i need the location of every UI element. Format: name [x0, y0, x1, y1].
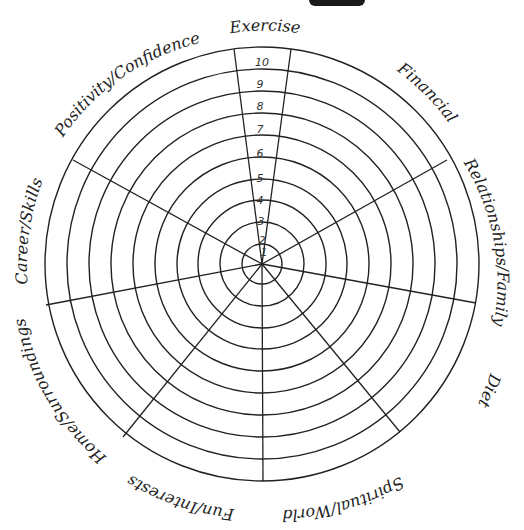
- scale-9: 9: [257, 78, 264, 91]
- category-diet: Diet: [474, 371, 505, 412]
- spoke: [46, 264, 262, 305]
- category-career-skills: Career/Skills: [12, 175, 47, 285]
- category-relationships-family: Relationships/Family: [460, 154, 513, 329]
- scale-3: 3: [258, 215, 265, 228]
- spoke: [262, 264, 400, 432]
- category-exercise: Exercise: [227, 16, 301, 38]
- category-labels: Exercise Financial Relationships/Family …: [10, 16, 513, 526]
- spoke: [123, 264, 262, 437]
- spoke: [262, 264, 263, 481]
- scale-7: 7: [257, 123, 264, 136]
- category-home-surroundings: Home/Surroundings: [10, 317, 110, 469]
- category-spiritual-world: Spiritual/World: [282, 473, 407, 525]
- scale-2: 2: [259, 234, 266, 247]
- wheel-of-life: 1 2 3 4 5 6 7 8 9 10 Exercise Financial …: [0, 0, 524, 530]
- scale-4: 4: [257, 194, 264, 207]
- scale-6: 6: [257, 147, 264, 160]
- category-fun-interests: Fun/Interests: [123, 471, 235, 524]
- scale-5: 5: [257, 172, 264, 185]
- scale-10: 10: [255, 56, 269, 69]
- category-financial: Financial: [393, 58, 461, 126]
- scale-8: 8: [257, 100, 264, 113]
- scale-1: 1: [261, 246, 268, 259]
- spoke: [262, 160, 447, 264]
